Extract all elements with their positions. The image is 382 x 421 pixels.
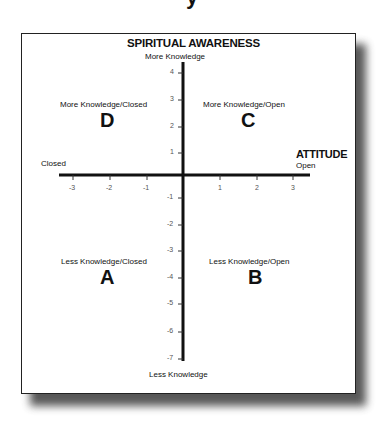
quadrant-d-letter: D xyxy=(100,109,114,132)
diagram-title: SPIRITUAL AWARENESS xyxy=(127,37,260,49)
x-tick-label: 2 xyxy=(255,184,259,191)
x-axis-right-label: Open xyxy=(296,161,316,170)
quadrant-a-letter: A xyxy=(100,266,114,289)
y-tick-label: -2 xyxy=(167,220,173,227)
y-tick-label: 3 xyxy=(170,95,174,102)
quadrant-a-description: Less Knowledge/Closed xyxy=(61,257,147,266)
y-tick-label: -1 xyxy=(167,193,173,200)
y-tick-label: -7 xyxy=(167,354,173,361)
x-tick-label: -2 xyxy=(106,184,112,191)
y-tick-label: -4 xyxy=(167,273,173,280)
quadrant-c-description: More Knowledge/Open xyxy=(203,100,285,109)
y-tick-label: -3 xyxy=(167,246,173,253)
y-tick-label: -6 xyxy=(167,327,173,334)
x-tick-label: 1 xyxy=(218,184,222,191)
x-axis-name: ATTITUDE xyxy=(296,148,347,160)
quadrant-d-description: More Knowledge/Closed xyxy=(60,100,147,109)
y-tick-label: -5 xyxy=(167,299,173,306)
x-axis-left-label: Closed xyxy=(41,159,66,168)
y-axis-bottom-label: Less Knowledge xyxy=(149,370,208,379)
y-axis-top-label: More Knowledge xyxy=(145,52,205,61)
y-tick-label: 1 xyxy=(170,148,174,155)
quadrant-b-description: Less Knowledge/Open xyxy=(209,257,290,266)
y-tick-label: 2 xyxy=(170,122,174,129)
x-tick-label: 3 xyxy=(291,184,295,191)
x-tick-label: -3 xyxy=(69,184,75,191)
x-tick-label: -1 xyxy=(143,184,149,191)
quadrant-c-letter: C xyxy=(241,109,255,132)
y-tick-label: 4 xyxy=(170,68,174,75)
quadrant-axes xyxy=(0,0,382,421)
quadrant-b-letter: B xyxy=(248,266,262,289)
